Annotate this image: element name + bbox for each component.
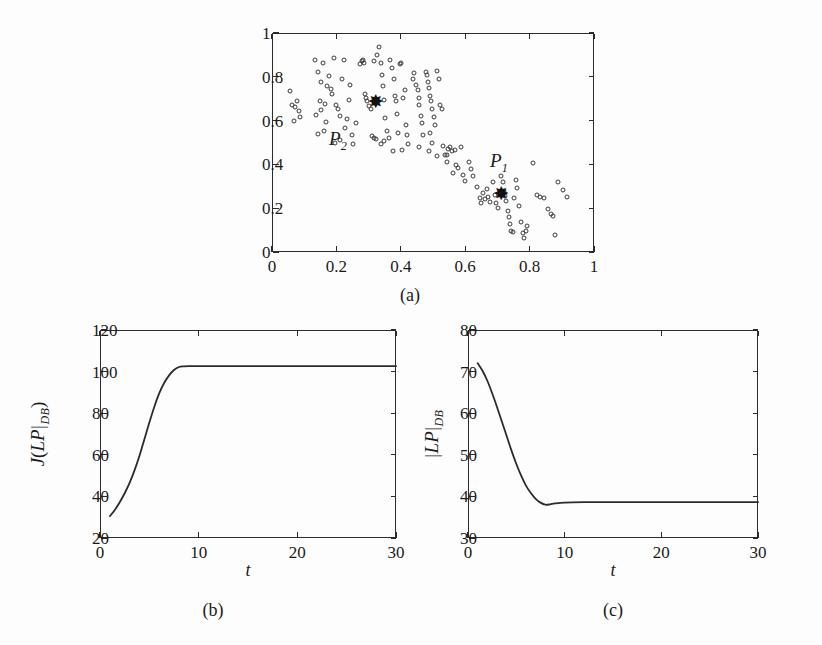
x-tick-label: 0.8 bbox=[519, 258, 540, 275]
y-tick-right bbox=[589, 251, 594, 252]
x-tick-label: 10 bbox=[556, 544, 573, 561]
scatter-point bbox=[338, 113, 343, 118]
scatter-point bbox=[523, 229, 528, 234]
scatter-point bbox=[456, 166, 461, 171]
scatter-point bbox=[525, 224, 530, 229]
scatter-point bbox=[401, 95, 406, 100]
y-tick-right bbox=[391, 496, 396, 497]
scatter-point bbox=[405, 142, 410, 147]
scatter-point bbox=[460, 172, 465, 177]
scatter-point bbox=[373, 136, 378, 141]
data-series-path bbox=[478, 363, 758, 505]
panel-b-curve bbox=[100, 330, 396, 538]
scatter-point bbox=[378, 61, 383, 66]
panel-c-yaxis-title: |LP|DB bbox=[421, 410, 447, 458]
scatter-point bbox=[416, 95, 421, 100]
scatter-point bbox=[444, 153, 449, 158]
scatter-point bbox=[452, 147, 457, 152]
scatter-point bbox=[488, 200, 493, 205]
scatter-point bbox=[515, 186, 520, 191]
scatter-point bbox=[331, 55, 336, 60]
x-tick bbox=[198, 532, 199, 538]
scatter-point bbox=[564, 194, 569, 199]
scatter-point bbox=[496, 205, 501, 210]
scatter-point bbox=[468, 167, 473, 172]
scatter-point bbox=[320, 61, 325, 66]
scatter-point bbox=[505, 208, 510, 213]
scatter-point bbox=[399, 61, 404, 66]
scatter-point bbox=[323, 101, 328, 106]
scatter-point bbox=[386, 135, 391, 140]
x-tick bbox=[400, 246, 401, 252]
panel-a-scatter-layer: ✸✸P1P2 bbox=[272, 33, 594, 252]
scatter-point bbox=[312, 57, 317, 62]
data-series-path bbox=[110, 366, 396, 516]
x-tick-label: 10 bbox=[190, 544, 207, 561]
panel-b-yaxis-title: J(LP|DB) bbox=[27, 402, 53, 467]
scatter-point bbox=[318, 79, 323, 84]
y-tick-right bbox=[753, 537, 758, 538]
y-tick-right bbox=[753, 496, 758, 497]
scatter-point bbox=[389, 66, 394, 71]
scatter-point bbox=[342, 58, 347, 63]
scatter-point bbox=[340, 77, 345, 82]
x-tick bbox=[465, 246, 466, 252]
scatter-point bbox=[552, 232, 557, 237]
y-tick bbox=[273, 32, 279, 33]
scatter-point bbox=[427, 148, 432, 153]
scatter-point bbox=[459, 145, 464, 150]
x-tick-label: 0.4 bbox=[390, 258, 411, 275]
scatter-point bbox=[412, 70, 417, 75]
x-tick-top bbox=[297, 331, 298, 336]
y-tick-right bbox=[753, 454, 758, 455]
x-tick-label: 1 bbox=[590, 258, 599, 275]
scatter-point bbox=[436, 77, 441, 82]
scatter-point bbox=[297, 108, 302, 113]
scatter-point bbox=[514, 178, 519, 183]
scatter-point bbox=[400, 148, 405, 153]
scatter-point bbox=[471, 174, 476, 179]
scatter-point bbox=[404, 133, 409, 138]
scatter-point bbox=[393, 99, 398, 104]
scatter-point bbox=[477, 195, 482, 200]
y-tick-right bbox=[589, 208, 594, 209]
scatter-point bbox=[428, 94, 433, 99]
panel-c-xaxis-title: t bbox=[610, 560, 615, 581]
scatter-point bbox=[411, 76, 416, 81]
figure-root: ✸✸P1P2 00.20.40.60.8100.20.40.60.81 (a) … bbox=[0, 0, 822, 645]
x-tick-top bbox=[336, 34, 337, 39]
scatter-point bbox=[431, 114, 436, 119]
scatter-point bbox=[561, 188, 566, 193]
scatter-point bbox=[346, 97, 351, 102]
panel-c-caption: (c) bbox=[603, 600, 623, 621]
scatter-point bbox=[291, 119, 296, 124]
scatter-point bbox=[393, 94, 398, 99]
scatter-point bbox=[418, 113, 423, 118]
x-tick-label: 30 bbox=[388, 544, 405, 561]
scatter-point bbox=[315, 69, 320, 74]
scatter-point bbox=[298, 114, 303, 119]
y-tick-right bbox=[391, 329, 396, 330]
x-tick-top bbox=[465, 34, 466, 39]
scatter-point bbox=[317, 99, 322, 104]
y-tick-right bbox=[589, 164, 594, 165]
scatter-point bbox=[403, 123, 408, 128]
scatter-point bbox=[542, 196, 547, 201]
scatter-point bbox=[402, 87, 407, 92]
scatter-point bbox=[420, 133, 425, 138]
scatter-point bbox=[426, 79, 431, 84]
x-tick-top bbox=[529, 34, 530, 39]
scatter-point bbox=[354, 121, 359, 126]
scatter-point bbox=[480, 191, 485, 196]
scatter-point bbox=[434, 154, 439, 159]
x-tick bbox=[297, 532, 298, 538]
x-tick bbox=[529, 246, 530, 252]
scatter-point bbox=[394, 112, 399, 117]
scatter-point bbox=[434, 69, 439, 74]
p1-label: P1 bbox=[490, 150, 508, 176]
scatter-point bbox=[429, 99, 434, 104]
scatter-point bbox=[318, 108, 323, 113]
scatter-point bbox=[510, 229, 515, 234]
scatter-point bbox=[376, 44, 381, 49]
x-tick-top bbox=[757, 331, 758, 336]
